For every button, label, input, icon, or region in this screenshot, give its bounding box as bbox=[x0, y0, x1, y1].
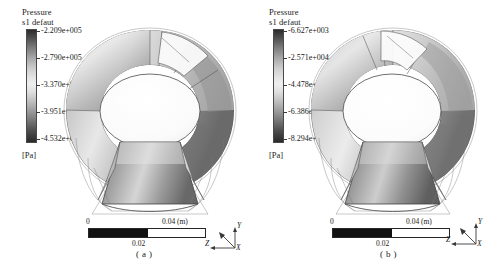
triad-label-z-a: Z bbox=[205, 240, 209, 248]
scale-label-min-b: 0 bbox=[330, 218, 334, 226]
scale-label-mid-b: 0.02 bbox=[376, 240, 389, 248]
cone-highlight-b bbox=[358, 142, 428, 164]
triad-label-y-b: Y bbox=[478, 218, 482, 226]
scale-bar-b: 0 0.04 (m) 0.02 bbox=[332, 228, 450, 239]
cone-highlight-a bbox=[115, 142, 186, 164]
scale-box-b bbox=[332, 228, 450, 238]
figure-panel-b: Pressure s1 defaut -6.627e+003 -2.571e+0… bbox=[247, 0, 493, 273]
cone-bottom-edge-b bbox=[345, 204, 440, 212]
scale-label-mid-a: 0.02 bbox=[132, 240, 145, 248]
scale-label-max-a: 0.04 (m) bbox=[162, 218, 188, 226]
triad-label-y-a: Y bbox=[237, 222, 241, 230]
scale-bar-a: 0 0.04 (m) 0.02 bbox=[88, 228, 206, 239]
scale-label-min-a: 0 bbox=[86, 218, 90, 226]
central-hub-opening-b bbox=[343, 74, 441, 148]
scale-fill-a bbox=[89, 229, 148, 237]
triad-label-z-b: Z bbox=[446, 236, 450, 244]
scale-box-a bbox=[88, 228, 206, 238]
triad-label-x-a: X bbox=[236, 244, 241, 252]
figure-panel-a: Pressure s1 defaut -2.209e+005 -2.790e+0… bbox=[0, 0, 246, 273]
axes-triad-b: Y Z X bbox=[446, 218, 490, 254]
panel-caption-b: ( b ) bbox=[380, 249, 397, 259]
pressure-contour-model-a bbox=[58, 18, 243, 216]
pressure-contour-model-b bbox=[303, 18, 483, 216]
central-hub-opening-a bbox=[100, 74, 200, 148]
colorbar-unit-b: [Pa] bbox=[269, 151, 283, 160]
axes-triad-a: Y Z X bbox=[205, 222, 249, 258]
colorbar-unit-a: [Pa] bbox=[22, 151, 36, 160]
cone-bottom-edge-a bbox=[102, 204, 198, 212]
panel-caption-a: ( a ) bbox=[136, 249, 153, 259]
scale-label-max-b: 0.04 (m) bbox=[406, 218, 432, 226]
triad-label-x-b: X bbox=[477, 240, 482, 248]
scale-fill-b bbox=[333, 229, 392, 237]
